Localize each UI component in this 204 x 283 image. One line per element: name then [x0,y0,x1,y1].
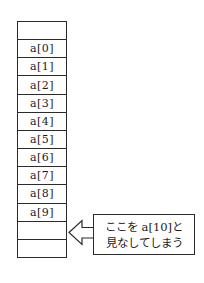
diagram-stage: a[0] a[1] a[2] a[3] a[4] a[5] a[6] a[7] … [0,0,204,283]
array-cell-a6: a[6] [18,149,66,167]
left-block-arrow-icon [66,218,95,247]
array-cell-a9: a[9] [18,204,66,222]
array-cell-a7: a[7] [18,167,66,185]
array-cell-a8: a[8] [18,185,66,203]
array-cell-a1: a[1] [18,58,66,76]
callout-box: ここを a[10]と 見なしてしまう [93,214,195,255]
array-cell-a0: a[0] [18,40,66,58]
array-cell-empty-top [18,22,66,40]
array-cell-a4: a[4] [18,113,66,131]
array-cell-a3: a[3] [18,95,66,113]
array-cell-a5: a[5] [18,131,66,149]
array-cell-a2: a[2] [18,76,66,94]
array-cell-empty-bottom [18,240,66,257]
array-memory-column: a[0] a[1] a[2] a[3] a[4] a[5] a[6] a[7] … [17,21,67,258]
callout-text-line2: 見なしてしまう [106,235,183,251]
array-cell-overflow-a10 [18,222,66,240]
callout-text-line1: ここを a[10]と [105,219,183,235]
